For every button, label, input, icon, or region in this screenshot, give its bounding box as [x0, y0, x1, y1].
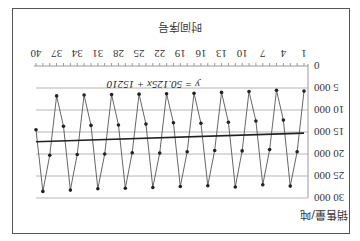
y-tick-label: 0	[314, 60, 320, 72]
data-point	[185, 150, 189, 154]
data-point	[130, 151, 134, 155]
data-point	[110, 93, 114, 97]
line-chart: 05 00010 00015 00020 00025 00030 0001471…	[0, 0, 360, 241]
data-point	[48, 154, 52, 158]
data-point	[295, 150, 299, 154]
data-point	[199, 121, 203, 125]
data-point	[137, 92, 141, 96]
data-point	[233, 185, 237, 189]
x-tick-label: 13	[216, 48, 228, 60]
trendline-equation: y = 50.125x + 15210	[106, 79, 201, 91]
data-point	[34, 128, 38, 132]
data-point	[261, 183, 265, 187]
x-axis-title: 时间序号	[158, 20, 202, 34]
x-tick-label: 25	[133, 48, 145, 60]
y-tick-label: 20 000	[314, 148, 345, 160]
x-tick-label: 37	[51, 48, 63, 60]
data-point	[213, 149, 217, 153]
data-point	[89, 124, 93, 128]
y-tick-label: 5 000	[314, 82, 339, 94]
y-axis-title: 销售量/吨	[300, 208, 348, 222]
data-point	[144, 122, 148, 126]
y-tick-label: 30 000	[314, 192, 345, 204]
data-point	[247, 90, 251, 94]
data-point	[254, 119, 258, 123]
data-point	[227, 121, 231, 125]
y-tick-label: 25 000	[314, 170, 345, 182]
x-tick-label: 7	[260, 48, 266, 60]
data-point	[206, 184, 210, 188]
chart-stage: 05 00010 00015 00020 00025 00030 0001471…	[0, 0, 360, 241]
trendline	[36, 133, 304, 142]
x-tick-label: 10	[236, 48, 248, 60]
data-point	[82, 93, 86, 97]
data-point	[172, 121, 176, 125]
data-point	[158, 151, 162, 155]
data-point	[192, 91, 196, 95]
x-tick-label: 28	[112, 48, 124, 60]
data-point	[275, 88, 279, 92]
data-point	[282, 118, 286, 122]
data-point	[75, 153, 79, 157]
x-tick-label: 16	[195, 48, 207, 60]
data-point	[41, 190, 45, 194]
data-point	[55, 94, 59, 98]
data-point	[179, 185, 183, 189]
x-tick-label: 34	[71, 48, 83, 60]
data-point	[103, 152, 107, 156]
data-point	[240, 149, 244, 153]
x-tick-label: 22	[154, 48, 165, 60]
data-point	[268, 148, 272, 152]
data-point	[124, 187, 128, 191]
x-tick-label: 31	[92, 48, 103, 60]
data-point	[62, 124, 66, 128]
y-tick-label: 10 000	[314, 104, 345, 116]
data-point	[69, 188, 73, 192]
x-tick-label: 4	[280, 48, 286, 60]
data-point	[96, 187, 100, 191]
x-tick-label: 1	[301, 48, 307, 60]
y-tick-label: 15 000	[314, 126, 345, 138]
data-point	[220, 91, 224, 95]
x-tick-label: 19	[174, 48, 186, 60]
data-point	[302, 89, 306, 93]
x-tick-label: 40	[30, 48, 42, 60]
data-point	[117, 123, 121, 127]
data-point	[151, 186, 155, 190]
data-point	[165, 92, 169, 96]
data-point	[288, 184, 292, 188]
